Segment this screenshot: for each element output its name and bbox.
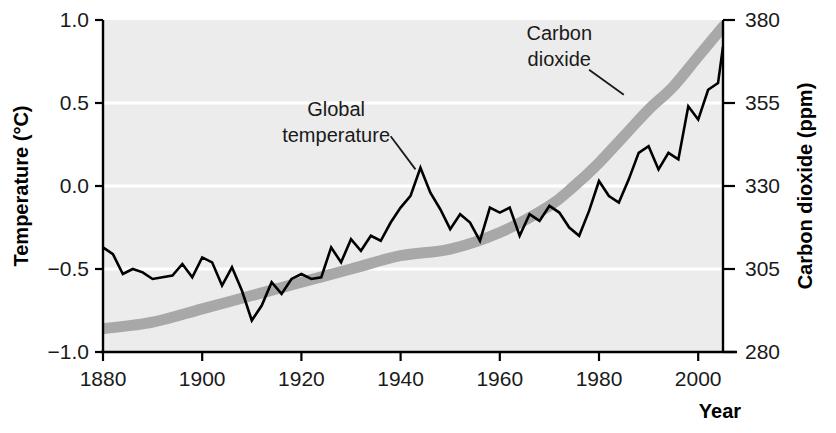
right-tick-label: 355 xyxy=(745,91,780,114)
left-tick-label: −0.5 xyxy=(48,257,89,280)
annotation-global-temperature-line2: temperature xyxy=(282,124,390,146)
left-tick-label: −1.0 xyxy=(48,340,89,363)
x-tick-label: 1960 xyxy=(476,367,523,390)
right-tick-label: 380 xyxy=(745,8,780,31)
annotation-global-temperature-line1: Global xyxy=(307,98,365,120)
x-tick-label: 1900 xyxy=(179,367,226,390)
annotation-carbon-dioxide-line2: dioxide xyxy=(528,48,591,70)
x-tick-label: 1880 xyxy=(80,367,127,390)
right-tick-label: 305 xyxy=(745,257,780,280)
x-tick-label: 1980 xyxy=(576,367,623,390)
left-tick-label: 0.5 xyxy=(60,91,89,114)
y-axis-title: Temperature (°C) xyxy=(10,106,32,267)
x-tick-label: 2000 xyxy=(675,367,722,390)
climate-chart-figure: −1.0−0.50.00.51.0 280305330355380 188019… xyxy=(0,0,836,433)
x-tick-label: 1920 xyxy=(278,367,325,390)
annotation-carbon-dioxide-line1: Carbon xyxy=(527,22,593,44)
y2-axis-title: Carbon dioxide (ppm) xyxy=(794,83,816,290)
chart-svg: −1.0−0.50.00.51.0 280305330355380 188019… xyxy=(0,0,836,433)
left-tick-label: 0.0 xyxy=(60,174,89,197)
right-tick-label: 330 xyxy=(745,174,780,197)
left-tick-label: 1.0 xyxy=(60,8,89,31)
x-axis-title: Year xyxy=(699,400,741,422)
x-tick-label: 1940 xyxy=(377,367,424,390)
right-tick-label: 280 xyxy=(745,340,780,363)
